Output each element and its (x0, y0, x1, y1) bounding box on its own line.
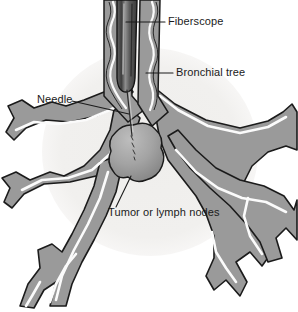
label-fiberscope: Fiberscope (168, 15, 223, 27)
fiberscope-body (117, 0, 137, 92)
tumor-mass (109, 123, 164, 181)
bronchoscopy-diagram: Fiberscope Bronchial tree Needle Tumor o… (0, 0, 298, 312)
fiberscope (117, 0, 137, 92)
label-bronchial-tree: Bronchial tree (176, 66, 245, 78)
label-needle: Needle (37, 93, 72, 105)
label-tumor-or-lymph-nodes: Tumor or lymph nodes (108, 206, 220, 218)
fiberscope-highlight (123, 4, 124, 74)
